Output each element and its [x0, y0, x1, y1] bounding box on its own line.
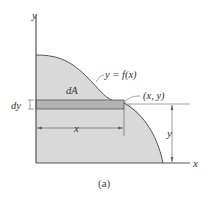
differential-strip: [36, 100, 124, 109]
curve-label: y = f(x): [104, 69, 137, 81]
figure-caption: (a): [98, 177, 111, 190]
y-axis-label: y: [31, 9, 37, 21]
x-axis-label: x: [192, 157, 198, 169]
vertical-dimension-label: y: [166, 127, 172, 139]
point-label: (x, y): [143, 90, 165, 102]
horizontal-dimension-label: x: [73, 122, 79, 134]
strip-thickness-label: dy: [11, 100, 21, 111]
area-diagram: y x y = f(x) dA (x, y) dy x y (a): [0, 0, 211, 202]
element-label: dA: [66, 85, 78, 96]
